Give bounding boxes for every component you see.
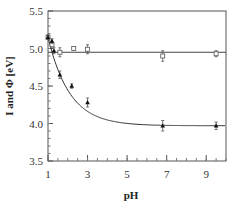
x-tick-label: 9	[203, 168, 209, 180]
open-square-marker	[161, 54, 165, 58]
filled-triangle-marker	[85, 100, 90, 104]
y-tick-label: 5.0	[29, 43, 43, 55]
filled-triangle-marker	[58, 72, 63, 76]
y-tick-label: 4.0	[29, 118, 43, 130]
open-square-marker	[72, 47, 76, 51]
x-tick-label: 1	[45, 168, 51, 180]
x-tick-label: 7	[164, 168, 170, 180]
y-tick-label: 5.5	[29, 5, 43, 17]
y-tick-label: 4.5	[29, 80, 43, 92]
plot-frame	[48, 11, 226, 161]
y-axis-title: I and Φ [eV]	[3, 56, 15, 116]
chart: 3.54.04.55.05.513579pHI and Φ [eV]	[0, 0, 232, 210]
x-axis-title: pH	[124, 189, 139, 201]
open-square-marker	[214, 52, 218, 56]
filled-triangle-marker	[69, 84, 74, 88]
open-square-marker	[58, 50, 62, 54]
y-tick-label: 3.5	[29, 155, 43, 167]
x-tick-label: 3	[85, 168, 91, 180]
open-square-marker	[86, 47, 90, 51]
x-tick-label: 5	[124, 168, 130, 180]
